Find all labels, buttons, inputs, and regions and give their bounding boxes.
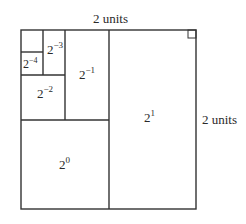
right-dimension-label: 2 units (202, 112, 237, 127)
region-2-pow-neg4-label: 2−4 (23, 56, 38, 71)
region-2-pow-1-label: 21 (144, 108, 155, 125)
region-2-pow-neg3-label: 2−3 (47, 40, 64, 57)
top-dimension-label: 2 units (93, 11, 128, 26)
region-2-pow-0-label: 20 (59, 155, 71, 172)
powers-of-two-square-diagram: 2 units 2 units 21 20 2−1 2−2 2−3 2−4 (0, 0, 246, 224)
region-2-pow-neg1-label: 2−1 (79, 65, 95, 82)
region-2-pow-neg2-label: 2−2 (37, 84, 53, 101)
right-angle-marker (188, 30, 196, 38)
